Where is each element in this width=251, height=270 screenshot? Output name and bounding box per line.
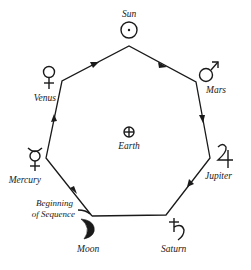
beginning-annotation: Beginning of Sequence (32, 198, 90, 219)
planetary-sequence-diagram: Sun Mars Venus Earth (0, 0, 251, 270)
jupiter-label: Jupiter (205, 171, 232, 181)
mercury-label: Mercury (8, 175, 42, 185)
earth-label: Earth (117, 141, 140, 151)
arrow-icon (199, 115, 205, 123)
venus-icon (44, 67, 55, 90)
heptagon-outline (46, 46, 210, 216)
beginning-label-line1: Beginning (36, 198, 73, 208)
saturn-icon (169, 218, 184, 240)
mars-label: Mars (205, 85, 226, 95)
earth-icon (124, 127, 134, 137)
sun-label: Sun (122, 9, 137, 19)
beginning-label-line2: of Sequence (32, 209, 75, 219)
sun-icon (121, 22, 137, 38)
node-saturn: Saturn (161, 218, 187, 254)
node-earth: Earth (117, 127, 140, 151)
moon-label: Moon (76, 244, 99, 254)
node-moon: Moon (76, 219, 99, 254)
direction-arrows (51, 62, 205, 194)
mars-icon (200, 62, 219, 82)
mercury-icon (28, 148, 42, 171)
node-mars: Mars (200, 62, 227, 95)
arrow-icon (51, 114, 57, 122)
moon-icon (81, 219, 94, 239)
saturn-label: Saturn (161, 244, 187, 254)
jupiter-icon (218, 145, 233, 169)
node-venus: Venus (34, 67, 56, 104)
heptagon-path (46, 46, 210, 216)
node-sun: Sun (121, 9, 137, 38)
venus-label: Venus (34, 93, 56, 103)
node-jupiter: Jupiter (205, 145, 233, 182)
node-mercury: Mercury (8, 148, 42, 185)
